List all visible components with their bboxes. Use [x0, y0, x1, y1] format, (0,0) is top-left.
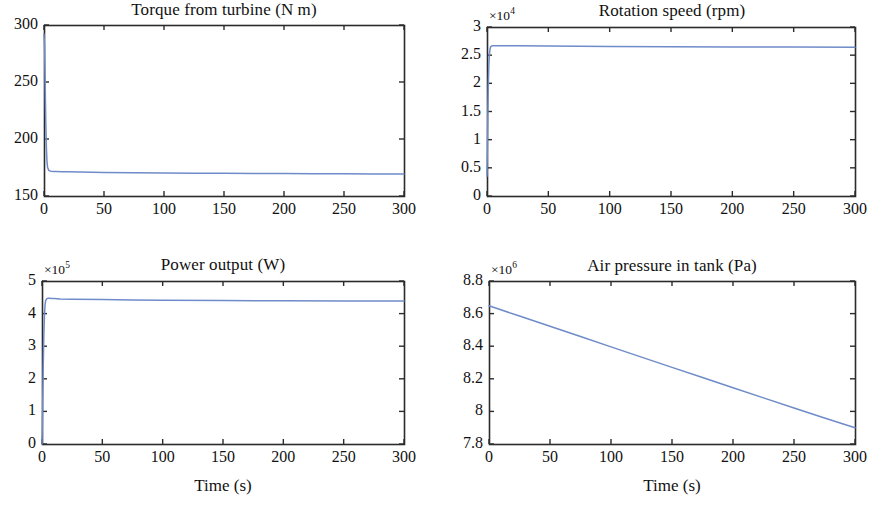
data-line-torque	[44, 34, 404, 174]
data-line-rotation-speed	[487, 46, 855, 177]
subplot-rotation-speed: Rotation speed (rpm)×10400.511.522.53050…	[0, 0, 870, 506]
plot-box	[488, 28, 856, 197]
axis-exponent-power-output: ×105	[44, 260, 70, 278]
x-tick-label: 300	[825, 448, 870, 466]
y-tick-label: 8.8	[423, 271, 483, 289]
plot-box	[43, 282, 405, 445]
x-tick-label: 50	[520, 448, 580, 466]
x-tick-label: 300	[825, 200, 870, 218]
x-tick-label: 300	[374, 200, 434, 218]
x-tick-label: 250	[764, 200, 824, 218]
subplot-air-pressure: Air pressure in tank (Pa)×1067.888.28.48…	[0, 0, 870, 506]
y-tick-label: 8	[423, 401, 483, 419]
figure-canvas: Torque from turbine (N m)150200250300050…	[0, 0, 870, 506]
y-tick-label: 3	[0, 336, 36, 354]
x-tick-label: 150	[194, 200, 254, 218]
x-axis-title-air-pressure: Time (s)	[522, 476, 822, 496]
y-tick-label: 8.4	[423, 336, 483, 354]
y-tick-label: 200	[0, 129, 38, 147]
axis-exponent-air-pressure: ×106	[491, 260, 517, 278]
x-tick-label: 0	[14, 200, 74, 218]
y-tick-label: 2	[0, 369, 36, 387]
x-tick-label: 0	[12, 448, 72, 466]
subplot-torque: Torque from turbine (N m)150200250300050…	[0, 0, 870, 506]
data-line-air-pressure	[489, 306, 855, 428]
y-tick-label: 0	[0, 434, 36, 452]
y-tick-label: 1	[0, 401, 36, 419]
plot-title-rotation-speed: Rotation speed (rpm)	[452, 1, 870, 21]
y-tick-label: 5	[0, 271, 36, 289]
x-tick-label: 50	[518, 200, 578, 218]
x-tick-label: 250	[764, 448, 824, 466]
x-axis-title-power-output: Time (s)	[73, 476, 373, 496]
x-tick-label: 250	[314, 200, 374, 218]
axes-rotation-speed	[0, 0, 870, 506]
exponent-power: 4	[510, 6, 515, 16]
x-tick-label: 250	[314, 448, 374, 466]
axes-power-output	[0, 0, 870, 506]
x-tick-label: 200	[253, 448, 313, 466]
x-tick-label: 150	[193, 448, 253, 466]
y-tick-label: 0.5	[421, 158, 481, 176]
subplot-power-output: Power output (W)×10501234505010015020025…	[0, 0, 870, 506]
y-tick-label: 3	[421, 17, 481, 35]
y-tick-label: 1	[421, 130, 481, 148]
x-tick-label: 0	[459, 448, 519, 466]
x-tick-label: 150	[641, 200, 701, 218]
x-tick-label: 200	[702, 200, 762, 218]
y-tick-label: 1.5	[421, 102, 481, 120]
y-tick-label: 7.8	[423, 434, 483, 452]
axes-torque	[0, 0, 870, 506]
y-tick-label: 150	[0, 186, 38, 204]
plot-box	[490, 282, 856, 445]
exponent-power: 6	[512, 260, 517, 270]
y-tick-label: 300	[0, 15, 38, 33]
plot-title-power-output: Power output (W)	[3, 255, 443, 275]
exponent-base: ×10	[44, 262, 65, 277]
x-tick-label: 200	[703, 448, 763, 466]
y-tick-label: 8.2	[423, 369, 483, 387]
plot-title-air-pressure: Air pressure in tank (Pa)	[452, 256, 870, 276]
x-tick-label: 100	[134, 200, 194, 218]
x-tick-label: 300	[374, 448, 434, 466]
x-tick-label: 100	[580, 200, 640, 218]
x-tick-label: 200	[254, 200, 314, 218]
y-tick-label: 8.6	[423, 304, 483, 322]
y-tick-label: 4	[0, 304, 36, 322]
plot-box	[45, 26, 405, 197]
y-tick-label: 2.5	[421, 45, 481, 63]
x-tick-label: 100	[581, 448, 641, 466]
x-tick-label: 0	[457, 200, 517, 218]
axes-air-pressure	[0, 0, 870, 506]
axis-exponent-rotation-speed: ×104	[489, 6, 515, 24]
y-tick-label: 0	[421, 186, 481, 204]
exponent-base: ×10	[491, 262, 512, 277]
plot-title-torque: Torque from turbine (N m)	[4, 0, 444, 20]
x-tick-label: 50	[74, 200, 134, 218]
y-tick-label: 250	[0, 72, 38, 90]
y-tick-label: 2	[421, 73, 481, 91]
x-tick-label: 150	[642, 448, 702, 466]
exponent-power: 5	[65, 260, 70, 270]
x-tick-label: 100	[133, 448, 193, 466]
data-line-power-output	[42, 298, 404, 444]
exponent-base: ×10	[489, 8, 510, 23]
x-tick-label: 50	[72, 448, 132, 466]
